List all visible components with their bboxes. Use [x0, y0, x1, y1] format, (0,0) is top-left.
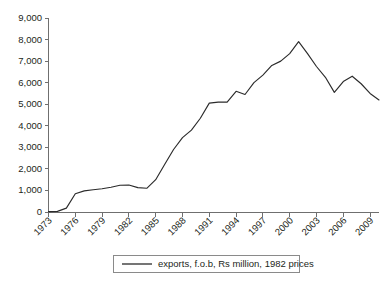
- x-tick-label: 2009: [353, 215, 376, 238]
- x-tick-label: 1976: [58, 215, 81, 238]
- x-tick-label: 2006: [326, 215, 349, 238]
- x-tick-label: 1985: [138, 215, 161, 238]
- y-tick-label: 2,000: [18, 163, 42, 174]
- legend-label: exports, f.o.b, Rs million, 1982 prices: [158, 258, 314, 269]
- x-axis: 1973197619791982198519881991199419972000…: [31, 213, 379, 238]
- x-tick-label: 1982: [112, 215, 135, 238]
- x-tick-label: 1988: [165, 215, 188, 238]
- x-tick-label: 1991: [192, 215, 215, 238]
- y-tick-label: 0: [37, 206, 42, 217]
- y-tick-label: 9,000: [18, 12, 42, 23]
- exports-line-chart: 01,0002,0003,0004,0005,0006,0007,0008,00…: [0, 0, 386, 285]
- y-tick-label: 6,000: [18, 77, 42, 88]
- y-tick-label: 5,000: [18, 98, 42, 109]
- x-tick-label: 1994: [219, 215, 242, 238]
- y-tick-label: 4,000: [18, 120, 42, 131]
- chart-canvas: 01,0002,0003,0004,0005,0006,0007,0008,00…: [0, 0, 386, 285]
- y-tick-marks: [45, 18, 49, 212]
- y-tick-label: 3,000: [18, 141, 42, 152]
- y-tick-labels: 01,0002,0003,0004,0005,0006,0007,0008,00…: [18, 12, 42, 217]
- x-tick-label: 1979: [85, 215, 108, 238]
- x-tick-label: 2000: [272, 215, 295, 238]
- x-tick-label: 2003: [299, 215, 322, 238]
- y-axis: 01,0002,0003,0004,0005,0006,0007,0008,00…: [18, 12, 48, 217]
- x-tick-marks: [49, 213, 371, 217]
- y-tick-label: 1,000: [18, 184, 42, 195]
- chart-legend: exports, f.o.b, Rs million, 1982 prices: [114, 256, 315, 273]
- y-tick-label: 7,000: [18, 55, 42, 66]
- y-tick-label: 8,000: [18, 34, 42, 45]
- x-tick-label: 1997: [246, 215, 269, 238]
- data-series-group: [49, 42, 380, 212]
- x-tick-label: 1973: [31, 215, 54, 238]
- x-tick-labels: 1973197619791982198519881991199419972000…: [31, 215, 375, 238]
- series-line-0: [49, 42, 380, 212]
